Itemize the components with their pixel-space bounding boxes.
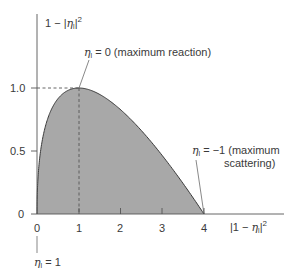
x-tick-label-0: 0 [34, 222, 40, 234]
x-tick-label-3: 3 [159, 222, 165, 234]
annotation-max-scattering-line2: scattering) [224, 157, 275, 169]
x-tick-label-4: 4 [201, 222, 207, 234]
annotation-max-reaction: ηl = 0 (maximum reaction) [84, 46, 211, 62]
y-tick-label-05: 0.5 [10, 145, 25, 157]
shaded-area [37, 88, 204, 214]
y-axis-label-prefix: 1 − | [45, 17, 67, 29]
annotation-text-line1: = −1 (maximum [200, 144, 279, 156]
eta-symbol: η [192, 144, 199, 157]
superscript: 2 [78, 15, 82, 24]
annotation-text: = 1 [42, 256, 61, 268]
eta-symbol: η [34, 256, 41, 269]
superscript: 2 [263, 219, 267, 228]
y-tick-label-1: 1.0 [10, 82, 25, 94]
y-tick-label-0: 0 [18, 208, 24, 220]
leader-reaction [79, 60, 89, 88]
annotation-eta-one: ηl = 1 [34, 256, 61, 272]
x-tick-label-2: 2 [117, 222, 123, 234]
y-axis-label: 1 − |ηl|2 [45, 14, 82, 33]
eta-symbol: η [84, 46, 91, 59]
x-axis-label: |1 − ηl|2 [230, 218, 267, 237]
chart-plot [0, 0, 295, 279]
annotation-text: = 0 (maximum reaction) [92, 46, 211, 58]
x-tick-label-1: 1 [76, 222, 82, 234]
x-axis-label-prefix: |1 − [230, 221, 252, 233]
